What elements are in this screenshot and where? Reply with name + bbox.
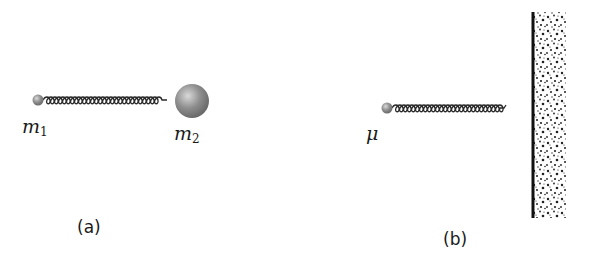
label-m2: m2 [174, 124, 200, 145]
spring-a [43, 97, 167, 104]
label-m1: m1 [22, 117, 48, 138]
label-m1-base: m [22, 115, 40, 137]
panel-b [382, 12, 567, 218]
caption-a: (a) [77, 219, 101, 236]
label-m2-base: m [174, 122, 192, 144]
label-m2-sub: 2 [192, 132, 200, 146]
label-m1-sub: 1 [40, 125, 48, 139]
label-mu: μ [366, 124, 378, 143]
caption-b: (b) [443, 231, 467, 248]
spring-b [392, 105, 506, 112]
mass-mu [382, 103, 393, 114]
wall [533, 12, 566, 218]
mass-m1 [33, 95, 44, 106]
panel-a [33, 84, 210, 118]
label-mu-base: μ [366, 122, 378, 144]
mass-m2 [175, 84, 209, 118]
